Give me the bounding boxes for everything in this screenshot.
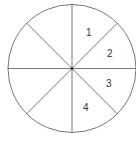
- sector-circle-diagram: 1 2 3 4: [0, 0, 136, 143]
- center-point: [71, 67, 73, 69]
- sector-label-4: 4: [83, 102, 89, 113]
- sector-label-2: 2: [107, 48, 113, 59]
- sector-label-1: 1: [86, 27, 92, 38]
- sector-label-3: 3: [106, 78, 112, 89]
